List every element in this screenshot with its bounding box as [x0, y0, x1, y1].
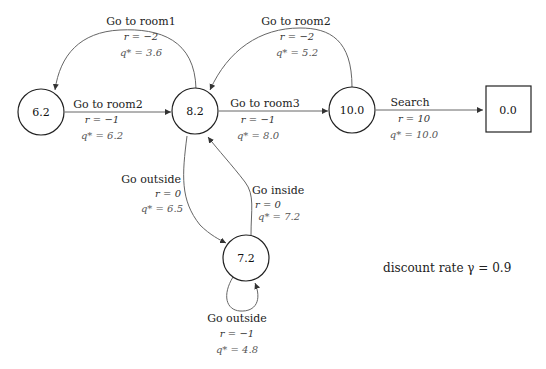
svg-text:r = 10: r = 10: [398, 113, 431, 124]
svg-text:0.0: 0.0: [499, 104, 517, 117]
state-node-s3: 10.0: [329, 87, 375, 133]
svg-text:q* = 6.2: q* = 6.2: [81, 130, 123, 141]
svg-text:q* = 3.6: q* = 3.6: [120, 47, 163, 58]
discount-rate-label: discount rate γ = 0.9: [383, 261, 511, 275]
label-go-to-room3: Go to room3 r = −1 q* = 8.0: [230, 97, 299, 141]
edge-go-outside: [184, 136, 226, 243]
edge-go-inside: [208, 137, 252, 235]
label-go-to-room2-b: Go to room2 r = −2 q* = 5.2: [261, 15, 330, 58]
label-go-to-room2-a: Go to room2 r = −1 q* = 6.2: [73, 98, 142, 141]
label-go-outside: Go outside r = 0 q* = 6.5: [121, 173, 183, 214]
svg-text:8.2: 8.2: [186, 105, 204, 118]
svg-text:Go to room2: Go to room2: [73, 98, 142, 111]
svg-text:Search: Search: [390, 96, 429, 109]
edge-self-loop: [227, 277, 258, 311]
svg-text:Go outside: Go outside: [207, 312, 267, 325]
terminal-node-s4: 0.0: [486, 86, 531, 132]
svg-text:r = −1: r = −1: [85, 114, 119, 125]
svg-text:q* = 8.0: q* = 8.0: [237, 130, 280, 141]
svg-text:q* = 6.5: q* = 6.5: [141, 203, 183, 214]
svg-text:q* = 10.0: q* = 10.0: [390, 129, 439, 140]
label-go-inside: Go inside r = 0 q* = 7.2: [252, 184, 304, 222]
svg-text:Go inside: Go inside: [252, 184, 304, 197]
svg-text:6.2: 6.2: [32, 106, 50, 119]
svg-text:r = −2: r = −2: [280, 31, 314, 42]
svg-text:Go outside: Go outside: [121, 173, 181, 186]
state-node-s2: 8.2: [172, 88, 218, 134]
state-node-s1: 6.2: [18, 89, 64, 135]
svg-text:r = −1: r = −1: [241, 114, 275, 125]
svg-text:10.0: 10.0: [340, 104, 365, 117]
svg-text:Go to room3: Go to room3: [230, 97, 299, 110]
svg-text:Go to room1: Go to room1: [106, 15, 175, 28]
svg-text:r = −2: r = −2: [124, 31, 158, 42]
label-self-loop: Go outside r = −1 q* = 4.8: [207, 312, 267, 355]
svg-text:r = 0: r = 0: [255, 199, 282, 210]
state-node-s5: 7.2: [223, 235, 269, 281]
label-search: Search r = 10 q* = 10.0: [390, 96, 439, 140]
svg-text:7.2: 7.2: [237, 252, 255, 265]
svg-text:q* = 4.8: q* = 4.8: [216, 344, 258, 355]
svg-text:r = 0: r = 0: [155, 188, 182, 199]
svg-text:q* = 7.2: q* = 7.2: [258, 211, 300, 222]
mdp-diagram: 6.2 8.2 10.0 0.0 7.2 Go to room1 r = −2 …: [0, 0, 546, 369]
svg-text:Go to room2: Go to room2: [261, 15, 330, 28]
svg-text:r = −1: r = −1: [220, 328, 254, 339]
svg-text:q* = 5.2: q* = 5.2: [276, 47, 318, 58]
